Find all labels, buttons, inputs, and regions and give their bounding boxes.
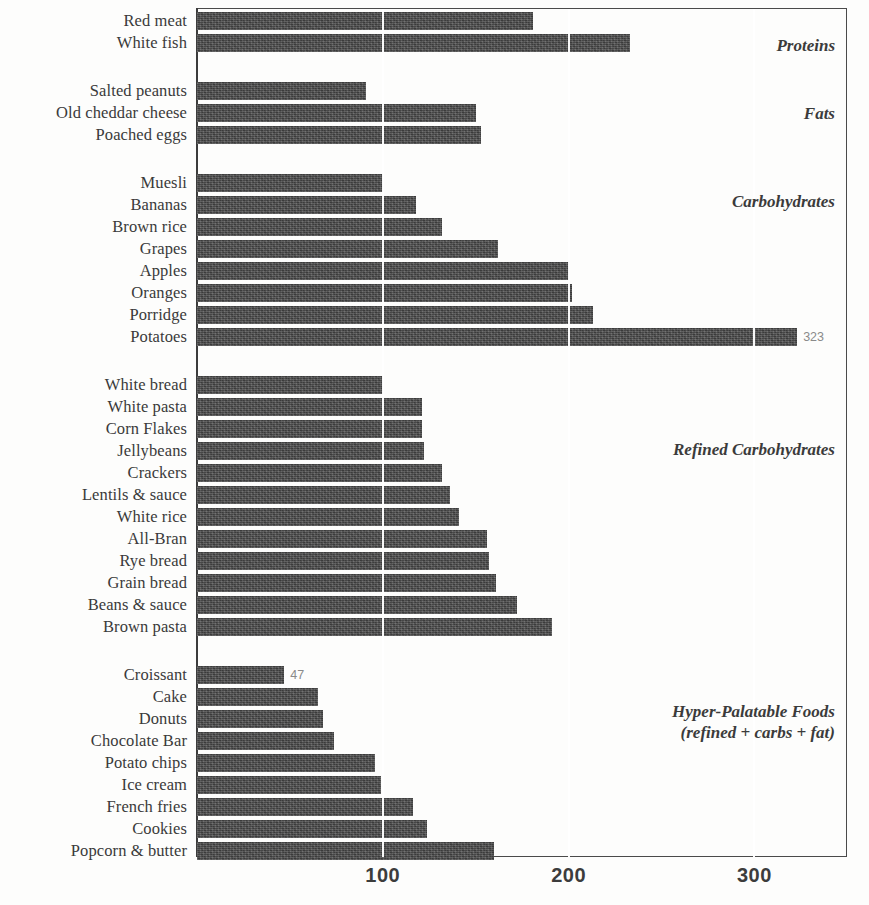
bar-row: Grapes bbox=[0, 240, 869, 258]
bar bbox=[197, 508, 459, 526]
bar-row-label: Jellybeans bbox=[117, 441, 187, 461]
bar-row: Old cheddar cheese bbox=[0, 104, 869, 122]
bar-row-label: Beans & sauce bbox=[88, 595, 187, 615]
bar bbox=[197, 552, 489, 570]
bar-row-label: Corn Flakes bbox=[106, 419, 187, 439]
bar bbox=[197, 530, 487, 548]
section-label-proteins: Proteins bbox=[776, 36, 835, 57]
bar bbox=[197, 104, 476, 122]
bar-row: Potatoes323 bbox=[0, 328, 869, 346]
bar-value-label: 47 bbox=[290, 668, 304, 682]
section-label-hyper-palatable-foods: Hyper-Palatable Foods (refined + carbs +… bbox=[672, 702, 835, 743]
bar bbox=[197, 688, 318, 706]
bar-row-label: Bananas bbox=[130, 195, 187, 215]
bar bbox=[197, 776, 381, 794]
bar-row: Oranges bbox=[0, 284, 869, 302]
bar-row-label: Brown rice bbox=[112, 217, 187, 237]
bar bbox=[197, 618, 552, 636]
bar-row-label: Croissant bbox=[124, 665, 187, 685]
bar-row-label: White rice bbox=[117, 507, 187, 527]
bar bbox=[197, 464, 442, 482]
bar bbox=[197, 442, 424, 460]
bar-row: Beans & sauce bbox=[0, 596, 869, 614]
bar-row-label: Popcorn & butter bbox=[71, 841, 187, 861]
bar-row-label: Apples bbox=[140, 261, 187, 281]
bar bbox=[197, 34, 630, 52]
bar-row-label: Rye bread bbox=[119, 551, 187, 571]
bar-row-label: Donuts bbox=[139, 709, 187, 729]
bar-row: Apples bbox=[0, 262, 869, 280]
gridline bbox=[382, 9, 384, 857]
bar-row-label: Poached eggs bbox=[96, 125, 187, 145]
bar-row-label: Porridge bbox=[129, 305, 187, 325]
bar bbox=[197, 328, 797, 346]
bar-row: Salted peanuts bbox=[0, 82, 869, 100]
bar-row-label: Chocolate Bar bbox=[91, 731, 187, 751]
bar bbox=[197, 596, 517, 614]
bar-row: Croissant47 bbox=[0, 666, 869, 684]
bar bbox=[197, 574, 496, 592]
gridline bbox=[568, 9, 570, 857]
bar bbox=[197, 240, 498, 258]
bar bbox=[197, 666, 284, 684]
bar bbox=[197, 398, 422, 416]
bar-row-label: Potatoes bbox=[130, 327, 187, 347]
bar-row-label: Brown pasta bbox=[103, 617, 187, 637]
bar bbox=[197, 842, 494, 860]
bar-row: White fish bbox=[0, 34, 869, 52]
bar-row-label: White bread bbox=[105, 375, 187, 395]
bar-row: Lentils & sauce bbox=[0, 486, 869, 504]
bar bbox=[197, 174, 383, 192]
bar-chart: Red meatWhite fishSalted peanutsOld ched… bbox=[0, 0, 869, 905]
bar-row-label: White pasta bbox=[108, 397, 187, 417]
bar-row: White rice bbox=[0, 508, 869, 526]
bar bbox=[197, 126, 481, 144]
bar bbox=[197, 798, 413, 816]
bar-row: French fries bbox=[0, 798, 869, 816]
bar bbox=[197, 420, 422, 438]
bar-row-label: Salted peanuts bbox=[90, 81, 187, 101]
bar-row: Red meat bbox=[0, 12, 869, 30]
bar-row: Popcorn & butter bbox=[0, 842, 869, 860]
bar bbox=[197, 754, 375, 772]
bar-row-label: Muesli bbox=[141, 173, 187, 193]
bar-row: Crackers bbox=[0, 464, 869, 482]
x-axis-tick-label: 200 bbox=[551, 864, 586, 887]
bar-value-label: 323 bbox=[803, 330, 824, 344]
bar-row: White bread bbox=[0, 376, 869, 394]
bar bbox=[197, 376, 383, 394]
bar-row-label: Red meat bbox=[123, 11, 187, 31]
bar-row: Muesli bbox=[0, 174, 869, 192]
bar-row-label: Cake bbox=[153, 687, 187, 707]
bar-row: White pasta bbox=[0, 398, 869, 416]
bar bbox=[197, 820, 427, 838]
section-label-refined-carbohydrates: Refined Carbohydrates bbox=[673, 440, 835, 461]
bar-row-label: Crackers bbox=[128, 463, 187, 483]
bar-row: Grain bread bbox=[0, 574, 869, 592]
bar-row: Poached eggs bbox=[0, 126, 869, 144]
bar bbox=[197, 284, 572, 302]
bar-row: Ice cream bbox=[0, 776, 869, 794]
bar bbox=[197, 218, 442, 236]
bar-row: Brown pasta bbox=[0, 618, 869, 636]
bar bbox=[197, 82, 366, 100]
bar bbox=[197, 12, 533, 30]
section-label-carbohydrates: Carbohydrates bbox=[732, 192, 835, 213]
section-label-fats: Fats bbox=[804, 104, 835, 125]
bar-row-label: French fries bbox=[107, 797, 187, 817]
bar-row-label: Grain bread bbox=[108, 573, 187, 593]
bar-row: Porridge bbox=[0, 306, 869, 324]
bar-row-label: Old cheddar cheese bbox=[56, 103, 187, 123]
bar-row-label: All-Bran bbox=[128, 529, 187, 549]
bar-row: Brown rice bbox=[0, 218, 869, 236]
bar-row-label: White fish bbox=[117, 33, 187, 53]
bar-row-label: Oranges bbox=[131, 283, 187, 303]
bar bbox=[197, 710, 323, 728]
x-axis-tick-label: 100 bbox=[365, 864, 400, 887]
bar-row: Potato chips bbox=[0, 754, 869, 772]
bar-row: Rye bread bbox=[0, 552, 869, 570]
bar-row-label: Cookies bbox=[132, 819, 187, 839]
bar-row: Cookies bbox=[0, 820, 869, 838]
bar-row-label: Grapes bbox=[140, 239, 187, 259]
bar-row: All-Bran bbox=[0, 530, 869, 548]
